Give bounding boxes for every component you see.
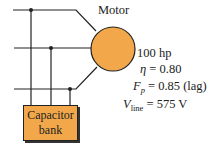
- vline-subscript: line: [131, 103, 144, 113]
- motor-symbol: [91, 27, 135, 71]
- junction-dot-c: [68, 87, 72, 91]
- vline-value: = 575 V: [147, 97, 188, 111]
- capacitor-bank: Capacitor bank: [23, 105, 78, 141]
- power-rating: 100 hp: [137, 47, 171, 60]
- pf-subscript: p: [141, 85, 145, 95]
- efficiency-spec: η = 0.80: [140, 63, 181, 76]
- wire-phase-a: [13, 10, 96, 31]
- power-factor-spec: Fp = 0.85 (lag): [133, 80, 207, 95]
- junction-dot-b: [49, 46, 53, 50]
- pf-symbol: F: [133, 79, 141, 93]
- line-voltage-spec: Vline = 575 V: [123, 98, 187, 113]
- capacitor-label-line1: Capacitor: [24, 108, 77, 123]
- capacitor-label-line2: bank: [24, 123, 77, 138]
- pf-value: = 0.85 (lag): [148, 79, 207, 93]
- efficiency-symbol: η: [140, 62, 146, 76]
- vline-symbol: V: [123, 97, 131, 111]
- efficiency-value: = 0.80: [149, 62, 181, 76]
- wire-phase-c: [14, 67, 97, 89]
- junction-dot-a: [29, 8, 33, 12]
- motor-label: Motor: [98, 4, 129, 17]
